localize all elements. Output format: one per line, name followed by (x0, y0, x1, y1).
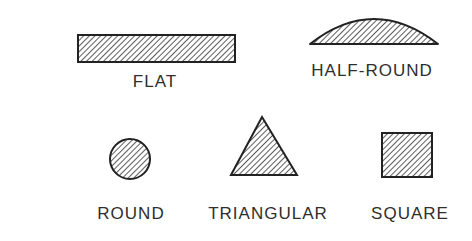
square-shape (382, 133, 432, 177)
round-label: ROUND (97, 205, 164, 222)
square-label: SQUARE (371, 205, 449, 222)
triangular-shape (231, 117, 297, 175)
half-round-shape (310, 19, 438, 44)
triangular-label: TRIANGULAR (208, 205, 328, 222)
round-shape (110, 139, 150, 179)
file-cross-sections-diagram: FLAT HALF-ROUND ROUND TRIANGULAR SQUARE (0, 0, 472, 241)
flat-shape (78, 35, 235, 62)
flat-label: FLAT (133, 73, 177, 90)
half-round-label: HALF-ROUND (311, 62, 432, 79)
